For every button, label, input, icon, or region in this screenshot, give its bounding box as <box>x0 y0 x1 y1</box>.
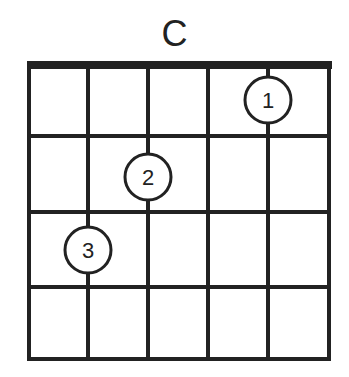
finger-dot-2: 2 <box>125 154 171 200</box>
finger-label-3: 3 <box>82 238 94 263</box>
finger-label-1: 1 <box>262 88 274 113</box>
finger-dot-1: 1 <box>245 77 291 123</box>
finger-label-2: 2 <box>142 165 154 190</box>
finger-dot-3: 3 <box>65 227 111 273</box>
nut <box>27 61 332 69</box>
chord-diagram: 1 2 3 <box>0 0 349 377</box>
